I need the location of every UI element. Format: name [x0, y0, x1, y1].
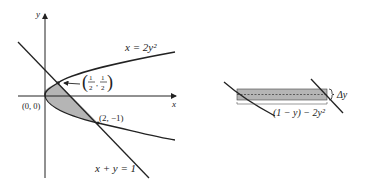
- svg-text:1: 1: [89, 74, 93, 82]
- line-label: x + y = 1: [94, 162, 136, 174]
- point-top-label: ( 1 2 , 1 2 ): [82, 72, 113, 93]
- right-figure: Δy (1 − y) − 2y²: [224, 79, 348, 119]
- svg-text:): ): [107, 72, 113, 93]
- curve-label: x = 2y²: [124, 41, 157, 53]
- width-label: (1 − y) − 2y²: [273, 107, 326, 119]
- diagram: y x x = 2y² x + y = 1 (0, 0) (2, −1) ( 1…: [0, 0, 368, 193]
- delta-y-label: Δy: [336, 89, 348, 100]
- svg-text:1: 1: [101, 74, 105, 82]
- point-bottom-label: (2, −1): [99, 113, 124, 123]
- y-axis-label: y: [35, 9, 40, 19]
- svg-text:2: 2: [89, 84, 93, 92]
- strip-rectangle: [237, 89, 327, 100]
- svg-text:(: (: [82, 72, 88, 93]
- point-half-half: [57, 81, 60, 84]
- svg-text:,: ,: [96, 79, 98, 88]
- origin-label: (0, 0): [22, 101, 41, 111]
- x-axis-label: x: [171, 99, 176, 109]
- pointer-arrow: [64, 83, 80, 84]
- left-figure: y x x = 2y² x + y = 1 (0, 0) (2, −1) ( 1…: [18, 9, 176, 178]
- svg-text:2: 2: [101, 84, 105, 92]
